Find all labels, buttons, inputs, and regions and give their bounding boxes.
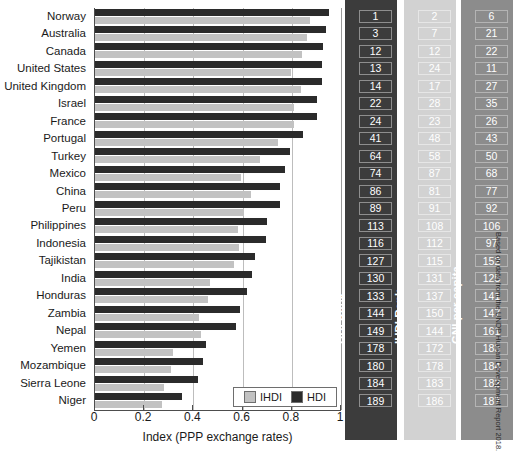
x-axis-ticks: 00.20.40.60.81 [94, 410, 341, 426]
bar-ihdi [95, 314, 199, 321]
bar-row [95, 341, 341, 358]
bar-ihdi [95, 331, 201, 338]
rank-column-gni-header: GNI per capita [450, 266, 462, 344]
rank-cell-hdi_rank: 22 [359, 97, 392, 110]
bar-ihdi [95, 366, 171, 373]
bar-ihdi [95, 401, 162, 408]
y-axis-label-mozambique: Mozambique [20, 359, 86, 371]
x-axis-title: Index (PPP exchange rates) [94, 430, 341, 444]
bar-hdi [95, 148, 290, 155]
bar-row [95, 306, 341, 323]
bar-row [95, 166, 341, 183]
bar-rows [95, 8, 341, 410]
x-tick-label: 0 [91, 410, 98, 424]
rank-column-ihdi: IHDI Rank 271224172823485887819110811211… [404, 0, 456, 440]
y-axis-label-norway: Norway [47, 10, 86, 22]
rank-cell-ihdi_rank: 186 [418, 394, 451, 407]
x-tick-label: 0.2 [135, 410, 152, 424]
rank-cell-ihdi_rank: 7 [418, 27, 451, 40]
rank-cell-gni_per_capita: 161 [475, 324, 508, 337]
y-axis-label-united-states: United States [17, 62, 86, 74]
bar-hdi [95, 306, 240, 313]
x-tick-label: 0.6 [233, 410, 250, 424]
y-axis-label-zambia: Zambia [48, 307, 86, 319]
rank-cell-gni_per_capita: 21 [475, 27, 508, 40]
x-tick-label: 1 [337, 410, 344, 424]
rank-cell-ihdi_rank: 12 [418, 45, 451, 58]
y-axis-label-turkey: Turkey [51, 150, 86, 162]
rank-cell-ihdi_rank: 17 [418, 80, 451, 93]
bar-row [95, 201, 341, 218]
legend-item-ihdi: IHDI [244, 391, 282, 403]
rank-cell-ihdi_rank: 28 [418, 97, 451, 110]
rank-cell-ihdi_rank: 108 [418, 219, 451, 232]
rank-column-ihdi-header: IHDI Rank [393, 290, 405, 344]
rank-cell-hdi_rank: 1 [359, 10, 392, 23]
y-axis-label-mexico: Mexico [50, 167, 86, 179]
bar-hdi [95, 341, 206, 348]
y-axis-labels: NorwayAustraliaCanadaUnited StatesUnited… [0, 8, 90, 410]
y-axis-label-canada: Canada [46, 45, 86, 57]
rank-cell-ihdi_rank: 172 [418, 342, 451, 355]
bar-row [95, 288, 341, 305]
bar-ihdi [95, 121, 294, 128]
rank-cell-hdi_rank: 74 [359, 167, 392, 180]
rank-cell-hdi_rank: 113 [359, 219, 392, 232]
rank-column-hdi-header: HDI Rank [334, 293, 346, 344]
rank-cell-ihdi_rank: 81 [418, 185, 451, 198]
rank-cell-hdi_rank: 14 [359, 80, 392, 93]
rank-cell-hdi_rank: 41 [359, 132, 392, 145]
rank-cell-gni_per_capita: 187 [475, 394, 508, 407]
bar-row [95, 43, 341, 60]
bar-hdi [95, 26, 326, 33]
bar-row [95, 183, 341, 200]
source-note: Based on data from the UNDP Human Develo… [494, 232, 503, 451]
rank-column-hdi: HDI Rank 1312131422244164748689113116127… [345, 0, 397, 440]
bar-row [95, 148, 341, 165]
rank-cell-hdi_rank: 86 [359, 185, 392, 198]
bar-row [95, 358, 341, 375]
y-axis-label-india: India [61, 272, 86, 284]
rank-cell-gni_per_capita: 183 [475, 342, 508, 355]
rank-cell-gni_per_capita: 68 [475, 167, 508, 180]
bar-hdi [95, 43, 323, 50]
legend-swatch-ihdi-icon [244, 391, 256, 403]
bar-hdi [95, 9, 329, 16]
bar-ihdi [95, 191, 251, 198]
plot-area [94, 8, 341, 411]
rank-cell-hdi_rank: 12 [359, 45, 392, 58]
bar-row [95, 96, 341, 113]
rank-cell-hdi_rank: 3 [359, 27, 392, 40]
rank-cell-ihdi_rank: 58 [418, 150, 451, 163]
bar-ihdi [95, 69, 291, 76]
x-tick-label: 0.8 [282, 410, 299, 424]
rank-cell-gni_per_capita: 141 [475, 289, 508, 302]
rank-cell-hdi_rank: 13 [359, 62, 392, 75]
rank-cell-hdi_rank: 116 [359, 237, 392, 250]
rank-cell-hdi_rank: 127 [359, 254, 392, 267]
bar-ihdi [95, 244, 239, 251]
bar-hdi [95, 113, 317, 120]
y-axis-label-france: France [50, 115, 86, 127]
bar-ihdi [95, 174, 241, 181]
rank-cell-hdi_rank: 180 [359, 359, 392, 372]
rank-cell-ihdi_rank: 87 [418, 167, 451, 180]
bar-row [95, 9, 341, 26]
bar-ihdi [95, 296, 208, 303]
bar-hdi [95, 253, 255, 260]
y-axis-label-philippines: Philippines [30, 219, 86, 231]
bar-row [95, 253, 341, 270]
bar-ihdi [95, 139, 278, 146]
bar-row [95, 113, 341, 130]
rank-cell-gni_per_capita: 35 [475, 97, 508, 110]
x-tick-label: 0.4 [184, 410, 201, 424]
bar-hdi [95, 131, 303, 138]
bar-hdi [95, 218, 267, 225]
y-axis-label-honduras: Honduras [36, 289, 86, 301]
bar-hdi [95, 271, 252, 278]
y-axis-label-tajikistan: Tajikistan [39, 254, 86, 266]
bar-ihdi [95, 384, 164, 391]
bar-hdi [95, 288, 247, 295]
rank-cell-ihdi_rank: 131 [418, 272, 451, 285]
rank-cell-hdi_rank: 178 [359, 342, 392, 355]
